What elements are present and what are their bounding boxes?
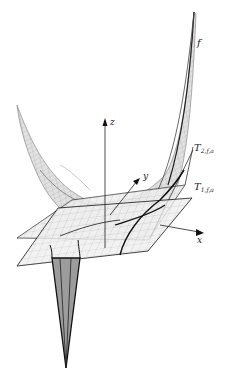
t1-plane: [17, 198, 192, 266]
y-axis-label: y: [143, 172, 148, 181]
t2-label-sub: 2,f,a: [201, 147, 214, 154]
surface-plot: [0, 0, 237, 387]
t1-label: T1,f,a: [194, 182, 214, 193]
f-spike: [50, 240, 80, 368]
figure-canvas: z y x f T2,f,a T1,f,a: [0, 0, 237, 387]
x-axis-label: x: [197, 236, 202, 245]
t1-label-sub: 1,f,a: [201, 186, 214, 193]
z-axis-label: z: [110, 118, 115, 127]
f-label: f: [197, 38, 201, 48]
t2-label: T2,f,a: [194, 143, 214, 154]
t2-label-main: T: [194, 142, 201, 153]
t1-label-main: T: [194, 181, 201, 192]
